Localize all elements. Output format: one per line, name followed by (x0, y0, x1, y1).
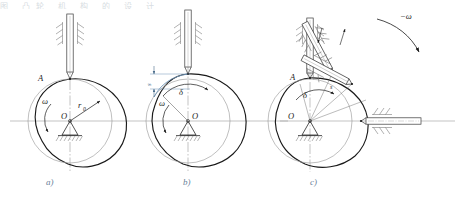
guide-hatching-left-a (56, 22, 63, 45)
omega-arc-arrow-b (163, 105, 169, 133)
label-r0-subscript-a: 0 (83, 106, 86, 112)
follower-position-horizontal-c (361, 118, 421, 124)
label-O-b: O (192, 111, 198, 121)
label-s-b: s (145, 83, 153, 86)
label-A-c: A (289, 72, 296, 82)
label-s-c: s (330, 84, 333, 90)
label-r0-a: r (78, 100, 82, 110)
up-down-motion-arrows-c (318, 28, 345, 45)
subfigure-b: s δ ω O (145, 10, 289, 172)
label-O-a: O (61, 111, 67, 121)
ground-hatching-a (56, 136, 83, 141)
cam-mechanism-figure: A ω r 0 O (0, 0, 459, 199)
ground-hatching-b (174, 136, 201, 141)
label-reverse-omega-c: −ω (400, 11, 412, 21)
delta-arc-arrow-c (296, 90, 334, 100)
label-A-a: A (37, 73, 44, 83)
guide-hatching-right-a (78, 22, 85, 45)
cam-profile-b (152, 74, 246, 167)
delta-arc-arrow-b (163, 84, 208, 96)
subfigure-c: A (268, 11, 455, 172)
contact-dot-horizontal-c (360, 120, 362, 122)
contact-dot-vertical-c (309, 77, 311, 79)
follower-rod-vertical-a (67, 14, 73, 79)
caption-a: a) (46, 177, 54, 187)
reverse-omega-arc-arrow-c (377, 19, 419, 52)
cam-profile-a (35, 79, 126, 167)
follower-rod-vertical-b (185, 10, 191, 74)
label-omega-b: ω (159, 98, 165, 108)
label-delta-b: δ (179, 87, 184, 97)
guide-hatching-left-b (174, 22, 181, 45)
contact-point-dot-a (69, 78, 71, 80)
label-omega-a: ω (42, 96, 48, 106)
label-delta-c: δ (303, 90, 308, 100)
label-O-c: O (288, 111, 294, 121)
caption-c: c) (310, 177, 317, 187)
omega-arc-arrow-a (45, 104, 51, 132)
subfigure-a: A ω r 0 O (10, 14, 148, 172)
cam-profile-c (276, 78, 369, 167)
ground-hatching-c (296, 136, 323, 141)
guide-hatching-right-b (196, 22, 203, 45)
caption-b: b) (183, 177, 191, 187)
contact-dot-diagonal-c (351, 83, 353, 85)
